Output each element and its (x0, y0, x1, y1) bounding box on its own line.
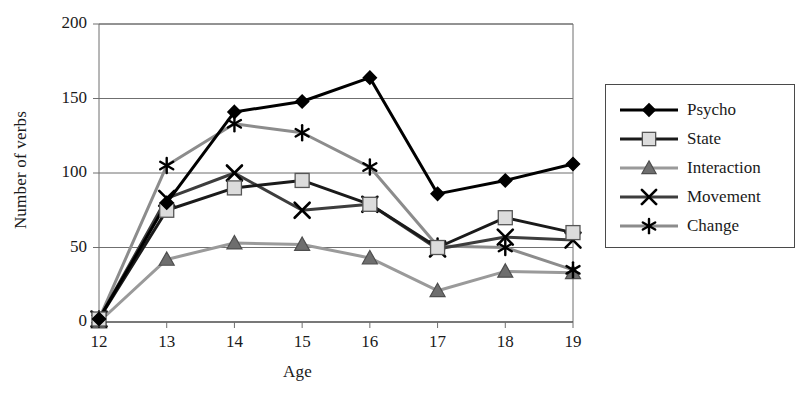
legend-item-movement: Movement (606, 182, 794, 211)
y-tick-label: 50 (43, 237, 87, 257)
legend-label: State (687, 129, 721, 149)
chart-figure: Number of verbs Age 050100150200 1213141… (0, 0, 807, 401)
x-axis-title: Age (283, 362, 312, 382)
legend-label: Psycho (687, 100, 736, 120)
legend-item-state: State (606, 124, 794, 153)
x-tick-label: 13 (147, 332, 187, 352)
series-markers (93, 71, 580, 325)
legend-label: Change (687, 216, 739, 236)
chart-plot-region: Number of verbs Age 050100150200 1213141… (0, 0, 590, 401)
legend-marker-square-icon (618, 128, 680, 150)
legend-label: Movement (687, 187, 761, 207)
x-tick-label: 12 (79, 332, 119, 352)
x-tick-label: 19 (553, 332, 593, 352)
y-tick-label: 100 (43, 162, 87, 182)
x-tick-label: 15 (282, 332, 322, 352)
legend-item-interaction: Interaction (606, 153, 794, 182)
x-tick-label: 16 (350, 332, 390, 352)
x-tick-label: 18 (485, 332, 525, 352)
x-tick-label: 14 (214, 332, 254, 352)
x-tick-label: 17 (418, 332, 458, 352)
legend-marker-x-icon (618, 186, 680, 208)
y-tick-label: 0 (43, 311, 87, 331)
legend-marker-asterisk-icon (618, 215, 680, 237)
y-tick-label: 200 (43, 13, 87, 33)
legend-item-change: Change (606, 211, 794, 240)
legend-marker-diamond-icon (618, 99, 680, 121)
y-tick-label: 150 (43, 88, 87, 108)
legend-label: Interaction (687, 158, 761, 178)
y-axis-title: Number of verbs (11, 100, 31, 240)
legend-item-psycho: Psycho (606, 95, 794, 124)
legend-marker-triangle-icon (618, 157, 680, 179)
chart-legend: Psycho State Interaction Movement Change (605, 84, 795, 248)
